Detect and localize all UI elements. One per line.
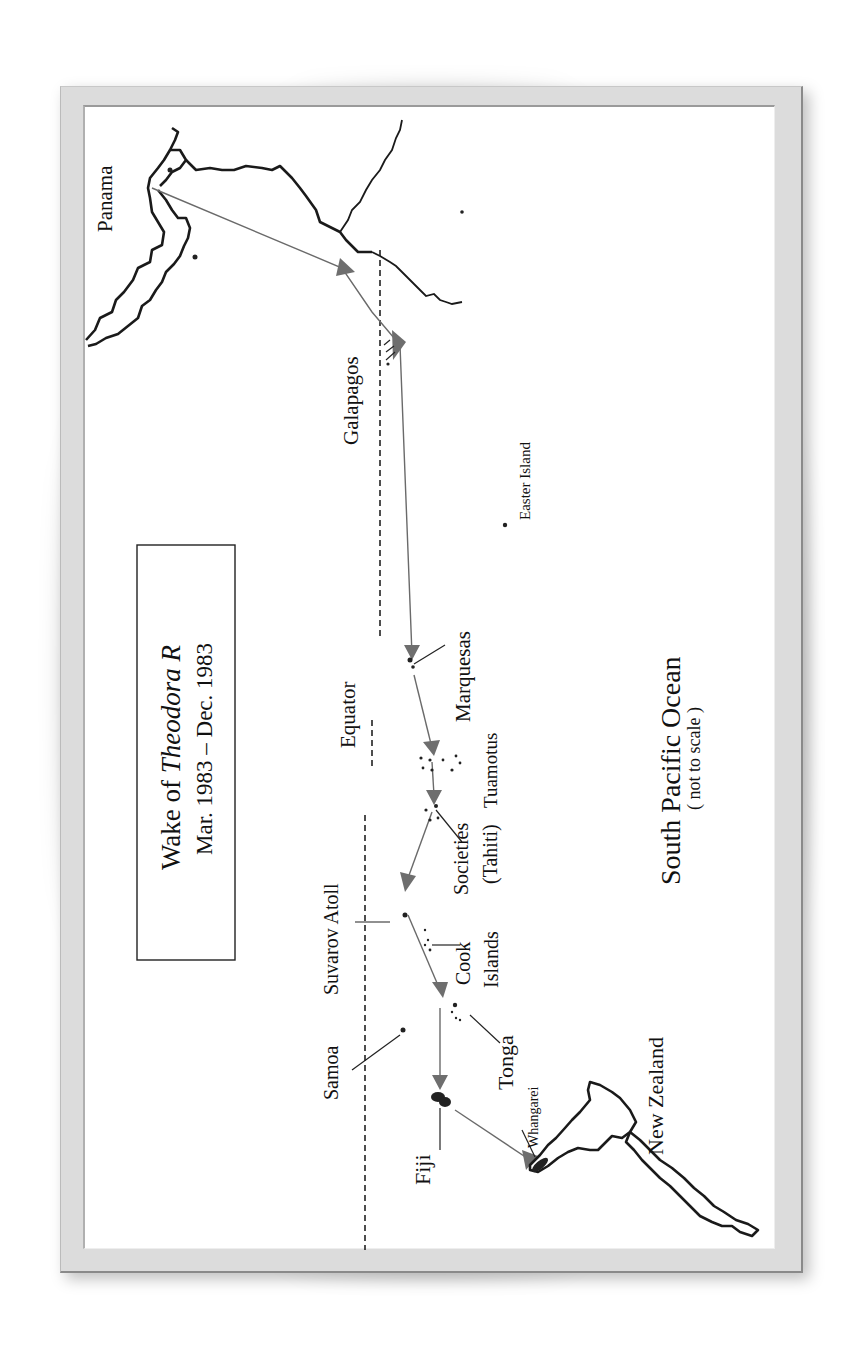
easter-island-dot — [503, 523, 507, 527]
fiji-islands — [431, 1092, 451, 1150]
label-fiji: Fiji — [410, 1154, 435, 1185]
label-tahiti: (Tahiti) — [479, 824, 502, 884]
map-title: Wake of Theodora R — [156, 644, 186, 870]
arrow-icon — [423, 740, 440, 756]
label-samoa: Samoa — [320, 1045, 342, 1100]
title-box: Wake of Theodora R Mar. 1983 – Dec. 1983 — [137, 545, 235, 960]
suvarov-atoll-dot — [403, 913, 408, 918]
route-arrowheads — [336, 258, 538, 1170]
island-dot — [168, 168, 173, 173]
label-cook: Cook — [452, 942, 474, 985]
label-societies: Societies — [450, 823, 472, 895]
arrow-icon — [432, 1075, 448, 1090]
label-suvarov-atoll: Suvarov Atoll — [320, 883, 342, 995]
arrow-icon — [336, 258, 355, 276]
label-galapagos: Galapagos — [339, 356, 363, 445]
arrow-icon — [432, 982, 448, 998]
island-dot — [411, 665, 415, 669]
marquesas-dot — [408, 658, 413, 663]
label-tuamotus: Tuamotus — [480, 733, 501, 808]
label-equator: Equator — [336, 682, 360, 748]
arrow-icon — [400, 872, 416, 892]
arrow-icon — [392, 330, 406, 360]
label-not-to-scale: ( not to scale ) — [684, 707, 705, 810]
label-islands: Islands — [480, 931, 502, 988]
label-whangarei: Whangarei — [526, 1086, 541, 1148]
label-new-zealand: New Zealand — [643, 1037, 668, 1155]
island-dot — [193, 255, 198, 260]
marquesas-leader — [414, 645, 445, 664]
arrow-icon — [404, 645, 420, 660]
route-map: Wake of Theodora R Mar. 1983 – Dec. 1983… — [0, 0, 849, 1355]
island-dot — [460, 210, 464, 214]
tuamotus-islands — [419, 755, 461, 772]
samoa-leader — [352, 1035, 400, 1070]
samoa-dot — [401, 1028, 406, 1033]
central-america-coastline — [86, 120, 464, 346]
label-panama: Panama — [93, 165, 117, 232]
label-easter-island: Easter Island — [517, 442, 533, 520]
map-date-range: Mar. 1983 – Dec. 1983 — [192, 643, 217, 855]
label-marquesas: Marquesas — [451, 631, 475, 722]
label-tonga: Tonga — [493, 1035, 518, 1090]
new-zealand-coastline — [522, 1082, 758, 1236]
arrow-icon — [426, 790, 442, 805]
label-south-pacific-ocean: South Pacific Ocean — [655, 656, 686, 885]
